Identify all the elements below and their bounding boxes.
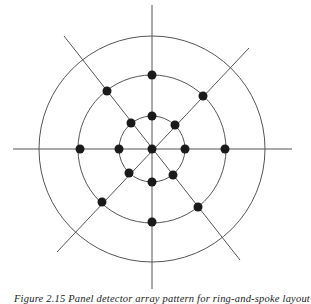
figure-caption: Figure 2.15 Panel detector array pattern… xyxy=(14,293,310,304)
middle-lower-left-dot xyxy=(98,198,107,207)
center-dot xyxy=(148,145,157,154)
inner-right-dot xyxy=(181,145,190,154)
inner-lower-left-dot xyxy=(125,169,134,178)
inner-upper-left-dot xyxy=(127,119,136,128)
middle-right-dot xyxy=(221,145,230,154)
inner-bottom-dot xyxy=(148,178,157,187)
inner-lower-right-dot xyxy=(169,171,178,180)
middle-upper-left-dot xyxy=(103,87,112,96)
middle-left-dot xyxy=(76,145,85,154)
middle-bottom-dot xyxy=(148,218,157,227)
inner-upper-right-dot xyxy=(171,121,180,130)
inner-top-dot xyxy=(148,112,157,121)
middle-upper-right-dot xyxy=(199,92,208,101)
middle-top-dot xyxy=(148,71,157,80)
middle-lower-right-dot xyxy=(194,203,203,212)
inner-left-dot xyxy=(115,145,124,154)
